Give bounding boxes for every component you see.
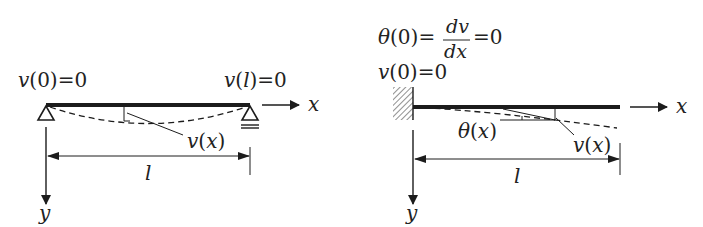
length-label: l [514, 164, 520, 188]
x-axis-label: x [308, 92, 319, 116]
svg-text:dx: dx [444, 40, 467, 62]
bc-deflection-label: v(0)=0 [378, 60, 447, 84]
bc-left-label: v(0)=0 [18, 68, 87, 92]
deflection-leader-line [556, 118, 574, 135]
beam-diagrams: v(0)=0 v(l)=0 v(x) x y [0, 0, 703, 227]
y-axis-label: y [405, 201, 418, 225]
bc-slope-label: θ(0)= dv dx =0 [378, 15, 502, 62]
fixed-wall-icon [393, 87, 413, 120]
svg-text:θ(0)=: θ(0)= [378, 25, 435, 49]
svg-text:dv: dv [446, 15, 469, 37]
deflection-label: v(x) [187, 129, 225, 153]
deflection-curve [415, 107, 617, 128]
bc-right-label: v(l)=0 [224, 68, 287, 92]
cantilever-beam-diagram: θ(0)= dv dx =0 v(0)=0 θ(x) v(x) [378, 15, 687, 225]
x-axis-label: x [676, 94, 687, 118]
length-label: l [145, 161, 151, 185]
roller-support-icon [241, 106, 259, 128]
y-axis-label: y [38, 201, 51, 225]
simply-supported-beam-diagram: v(0)=0 v(l)=0 v(x) x y [18, 68, 319, 225]
tangent-line [503, 109, 555, 120]
slope-label: θ(x) [458, 119, 497, 143]
deflection-label: v(x) [573, 133, 611, 157]
svg-text:=0: =0 [473, 25, 502, 49]
deflection-leader-line [127, 113, 183, 135]
